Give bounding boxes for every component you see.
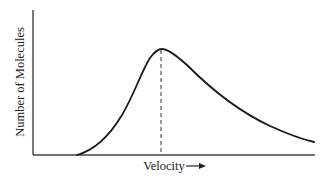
distribution-curve (77, 49, 314, 155)
y-axis-label: Number of Molecules (13, 27, 27, 137)
distribution-chart: Number of Molecules Velocity (0, 0, 331, 182)
arrow-right-icon (186, 163, 206, 169)
x-axis-label: Velocity (143, 159, 185, 173)
